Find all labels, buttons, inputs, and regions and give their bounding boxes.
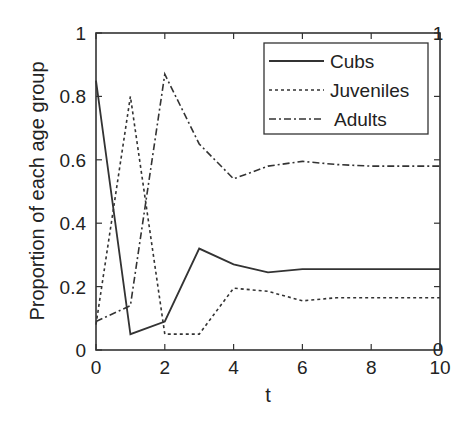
legend-label-juveniles: Juveniles (330, 80, 409, 101)
x-tick-label: 8 (366, 357, 377, 378)
y-tick-label: 0.6 (60, 150, 86, 171)
legend-label-cubs: Cubs (330, 51, 374, 72)
x-tick-label: 10 (429, 357, 450, 378)
y-tick-label: 0.2 (60, 277, 86, 298)
line-chart: 024681000.20.40.60.8101 CubsJuvenilesAdu… (0, 0, 469, 422)
x-tick-label: 0 (91, 357, 102, 378)
y-tick-label: 0.8 (60, 86, 86, 107)
legend: CubsJuvenilesAdults (264, 43, 428, 134)
x-tick-label: 2 (160, 357, 171, 378)
right-axis-tick-label: 1 (433, 23, 444, 44)
y-tick-label: 0.4 (60, 213, 87, 234)
x-tick-label: 6 (297, 357, 308, 378)
y-axis-label: Proportion of each age group (26, 61, 48, 320)
y-tick-label: 1 (75, 23, 86, 44)
y-tick-label: 0 (75, 340, 86, 361)
x-axis-label: t (265, 384, 271, 406)
right-axis-tick-label: 0 (433, 339, 444, 360)
legend-label-adults: Adults (334, 109, 387, 130)
x-tick-label: 4 (228, 357, 239, 378)
